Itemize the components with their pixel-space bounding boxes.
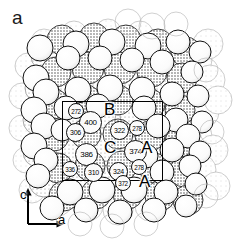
crystal-structure-figure: a <box>0 0 233 247</box>
atom-label-336: 336 <box>62 161 78 177</box>
atom-label-306: 306 <box>66 123 85 142</box>
axis-label-c: c <box>20 188 27 201</box>
atom-label-372: 372 <box>115 175 131 191</box>
atom-label-310: 310 <box>84 163 103 182</box>
site-letter-a1: A <box>141 139 152 156</box>
site-letter-c: C <box>104 139 116 156</box>
site-letter-a2: A <box>139 173 150 190</box>
axis-label-a: a <box>58 213 65 226</box>
site-letter-b: B <box>104 101 115 118</box>
panel-label: a <box>12 8 23 27</box>
atom-label-278a: 278 <box>129 120 145 136</box>
